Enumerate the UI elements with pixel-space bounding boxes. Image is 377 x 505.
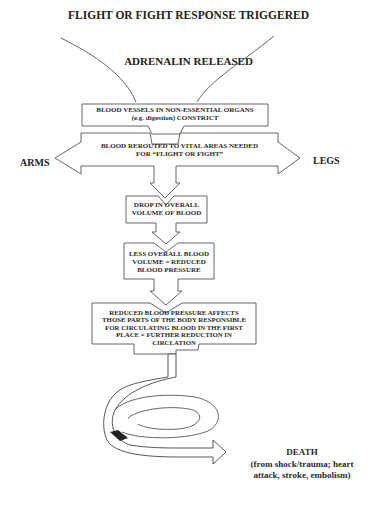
- step-3-text: DROP IN OVERALL VOLUME OF BLOOD: [126, 201, 207, 217]
- step-5-text: REDUCED BLOOD PRESSURE AFFECTS THOSE PAR…: [92, 309, 256, 346]
- left-curve-line: [61, 38, 136, 102]
- label-legs: LEGS: [313, 155, 340, 166]
- step-4-text: LESS OVERALL BLOOD VOLUME = REDUCED BLOO…: [124, 250, 214, 274]
- outcome-title: DEATH: [232, 447, 372, 459]
- step-2-text: BLOOD REROUTED TO VITAL AREAS NEEDED FOR…: [81, 142, 278, 158]
- label-adrenalin-released: ADRENALIN RELEASED: [0, 55, 377, 67]
- spiral-loop-inner: [128, 408, 200, 430]
- spiral-arrow: [104, 354, 226, 464]
- right-curve-line: [197, 36, 274, 102]
- outcome-death: DEATH (from shock/trauma; heart attack, …: [232, 447, 372, 482]
- label-arms: ARMS: [20, 157, 49, 168]
- step-1-text: BLOOD VESSELS IN NON-ESSENTIAL ORGANS (e…: [82, 106, 268, 122]
- title-flight-or-fight: FLIGHT OR FIGHT RESPONSE TRIGGERED: [0, 9, 377, 21]
